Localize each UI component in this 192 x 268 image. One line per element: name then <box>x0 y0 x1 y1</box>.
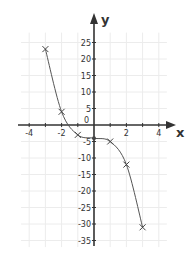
x-tick-label: -2 <box>58 129 66 138</box>
y-tick-label: -20 <box>78 187 91 196</box>
cubic-function-graph: -4-224252015105-5-10-15-20-25-30-35 x y … <box>0 0 192 268</box>
y-axis-label: y <box>101 12 110 27</box>
y-tick-label: -35 <box>78 237 91 246</box>
x-tick-label: -4 <box>25 129 33 138</box>
y-tick-label: 5 <box>86 105 91 114</box>
y-tick-label: -30 <box>78 220 91 229</box>
x-tick-label: 2 <box>124 129 129 138</box>
y-tick-label: -25 <box>78 204 91 213</box>
y-tick-label: -15 <box>78 171 91 180</box>
y-tick-label: -5 <box>83 138 91 147</box>
y-tick-label: 10 <box>81 88 91 97</box>
y-tick-label: 15 <box>81 72 91 81</box>
x-axis-label: x <box>176 125 185 140</box>
y-tick-label: -10 <box>78 154 91 163</box>
y-tick-label: 20 <box>81 55 91 64</box>
x-tick-label: 4 <box>156 129 161 138</box>
y-tick-label: 25 <box>81 39 91 48</box>
origin-label: 0 <box>84 116 89 125</box>
y-axis-arrow-icon <box>90 13 98 24</box>
axes <box>18 13 176 246</box>
x-axis-arrow-icon <box>166 121 176 129</box>
data-point-dot <box>92 136 96 140</box>
